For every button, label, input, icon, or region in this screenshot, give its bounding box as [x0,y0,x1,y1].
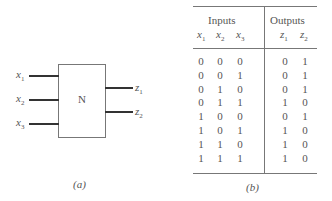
table-cell: 0 [195,97,207,108]
table-cell: 0 [299,139,311,150]
output-label-z1: z1 [135,82,143,96]
table-cell: 1 [214,97,226,108]
table-cell: 0 [214,70,226,81]
table-cell: 1 [299,70,311,81]
table-cell: 0 [299,97,311,108]
col-header-x1: x1 [197,29,205,43]
table-header-rule [193,48,317,49]
table-cell: 0 [195,56,207,67]
table-cell: 1 [214,84,226,95]
table-cell: 0 [299,153,311,164]
table-cell: 0 [214,56,226,67]
table-cell: 0 [234,111,246,122]
table-cell: 0 [279,56,291,67]
table-cell: 1 [279,125,291,136]
table-cell: 0 [279,111,291,122]
table-cell: 0 [299,125,311,136]
table-cell: 0 [195,70,207,81]
table-cell: 1 [279,139,291,150]
table-cell: 1 [234,70,246,81]
table-cell: 1 [214,139,226,150]
table-cell: 1 [234,97,246,108]
input-line-x1 [29,75,59,77]
table-top-rule [193,6,317,7]
table-cell: 1 [195,125,207,136]
block-label: N [58,93,106,105]
table-cell: 0 [234,56,246,67]
table-cell: 0 [234,139,246,150]
table-bottom-rule [193,173,317,174]
header-outputs: Outputs [270,14,305,26]
table-cell: 1 [195,139,207,150]
table-cell: 1 [279,97,291,108]
output-line-z1 [105,87,133,89]
table-cell: 0 [195,84,207,95]
table-cell: 1 [195,111,207,122]
output-line-z2 [105,111,133,113]
table-cell: 0 [214,125,226,136]
table-cell: 1 [299,56,311,67]
table-cell: 1 [195,153,207,164]
table-vertical-divider [264,6,265,174]
output-label-z2: z2 [135,106,143,120]
input-line-x3 [29,123,59,125]
table-cell: 0 [234,84,246,95]
table-cell: 0 [279,70,291,81]
col-header-z1: z1 [280,29,288,43]
col-header-x3: x3 [236,29,244,43]
input-label-x3: x3 [16,117,24,131]
table-cell: 0 [214,111,226,122]
table-cell: 1 [299,84,311,95]
caption-b: (b) [246,181,259,193]
table-cell: 1 [299,111,311,122]
header-inputs: Inputs [208,14,236,26]
table-cell: 0 [279,84,291,95]
table-cell: 1 [234,153,246,164]
input-line-x2 [29,99,59,101]
col-header-x2: x2 [216,29,224,43]
table-cell: 1 [214,153,226,164]
caption-a: (a) [73,178,86,190]
col-header-z2: z2 [300,29,308,43]
input-label-x2: x2 [16,93,24,107]
table-cell: 1 [279,153,291,164]
input-label-x1: x1 [16,69,24,83]
table-cell: 1 [234,125,246,136]
